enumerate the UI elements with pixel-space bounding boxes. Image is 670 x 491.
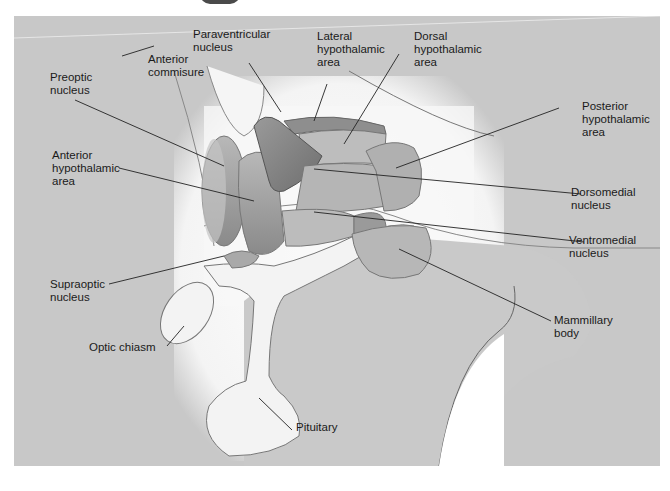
label-lateral-hypothalamic-area: Lateral hypothalamic area: [317, 30, 385, 69]
label-anterior-commissure: Anterior commisure: [148, 53, 204, 79]
title-fragment: [200, 0, 240, 4]
hypothalamus-illustration: [14, 16, 660, 466]
label-dorsal-hypothalamic-area: Dorsal hypothalamic area: [414, 30, 482, 69]
label-mammillary-body: Mammillary body: [554, 314, 613, 340]
label-optic-chiasm: Optic chiasm: [89, 341, 155, 354]
label-posterior-hypothalamic-area: Posterior hypothalamic area: [582, 100, 650, 139]
diagram-frame: Paraventricular nucleus Lateral hypothal…: [14, 16, 660, 466]
label-dorsomedial-nucleus: Dorsomedial nucleus: [571, 186, 636, 212]
label-paraventricular-nucleus: Paraventricular nucleus: [193, 28, 270, 54]
label-anterior-hypothalamic-area: Anterior hypothalamic area: [52, 149, 120, 188]
label-ventromedial-nucleus: Ventromedial nucleus: [569, 234, 636, 260]
label-preoptic-nucleus: Preoptic nucleus: [50, 71, 92, 97]
label-pituitary: Pituitary: [296, 421, 338, 434]
label-supraoptic-nucleus: Supraoptic nucleus: [50, 278, 105, 304]
